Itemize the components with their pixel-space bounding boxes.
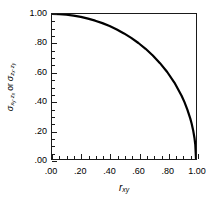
y-axis-subscript-1: xy·zx <box>9 92 16 105</box>
x-tick-minor <box>89 156 90 159</box>
y-tick-minor <box>52 51 55 52</box>
x-tick-label: .40 <box>103 166 116 176</box>
y-tick-minor <box>52 146 55 147</box>
y-tick-label: .40 <box>34 96 47 106</box>
y-tick-minor <box>52 154 55 155</box>
x-tick-label: 1.00 <box>188 166 206 176</box>
x-tick-major <box>52 154 53 159</box>
x-tick-minor <box>154 156 155 159</box>
y-tick-label: .60 <box>34 67 47 77</box>
y-tick-minor <box>52 124 55 125</box>
x-tick-label: .20 <box>74 166 87 176</box>
y-tick-label: .80 <box>34 37 47 47</box>
y-tick-label: .00 <box>34 155 47 165</box>
x-tick-minor <box>96 156 97 159</box>
x-tick-minor <box>162 156 163 159</box>
chart-figure: .00.20.40.60.801.00 .00.20.40.60.801.00 … <box>0 0 224 207</box>
x-tick-minor <box>125 156 126 159</box>
x-tick-label: .60 <box>132 166 145 176</box>
y-tick-minor <box>52 29 55 30</box>
x-axis-title: rxy <box>51 182 197 193</box>
x-tick-minor <box>176 156 177 159</box>
y-tick-minor <box>52 36 55 37</box>
y-axis-title-separator: or <box>5 81 15 93</box>
y-tick-minor <box>52 110 55 111</box>
x-tick-minor <box>191 156 192 159</box>
x-tick-minor <box>59 156 60 159</box>
x-tick-minor <box>103 156 104 159</box>
y-tick-major <box>52 102 57 103</box>
y-tick-minor <box>52 21 55 22</box>
x-axis-title-subscript: xy <box>122 186 129 193</box>
y-tick-major <box>52 161 57 162</box>
y-tick-major <box>52 73 57 74</box>
x-tick-major <box>81 154 82 159</box>
y-tick-minor <box>52 139 55 140</box>
y-tick-label: .20 <box>34 126 47 136</box>
y-tick-minor <box>52 117 55 118</box>
data-curve-path <box>52 14 196 159</box>
y-tick-major <box>52 14 57 15</box>
x-tick-label: .80 <box>162 166 175 176</box>
y-axis-title-wrapper: σxy·zxorσzx·zy <box>0 13 22 160</box>
x-tick-minor <box>118 156 119 159</box>
curve-svg <box>52 14 196 159</box>
x-tick-minor <box>147 156 148 159</box>
y-tick-major <box>52 132 57 133</box>
x-tick-major <box>140 154 141 159</box>
x-tick-label: .00 <box>45 166 58 176</box>
x-tick-minor <box>132 156 133 159</box>
plot-area <box>51 13 197 160</box>
y-tick-minor <box>52 80 55 81</box>
x-tick-major <box>169 154 170 159</box>
y-tick-minor <box>52 65 55 66</box>
x-tick-minor <box>67 156 68 159</box>
x-tick-minor <box>74 156 75 159</box>
y-tick-minor <box>52 88 55 89</box>
y-tick-minor <box>52 95 55 96</box>
x-tick-minor <box>183 156 184 159</box>
y-axis-subscript-2: zx·zy <box>9 62 16 75</box>
y-tick-major <box>52 43 57 44</box>
x-tick-major <box>198 154 199 159</box>
x-tick-major <box>110 154 111 159</box>
y-tick-label: 1.00 <box>29 8 47 18</box>
y-tick-minor <box>52 58 55 59</box>
sub2-sub2: y <box>12 62 17 64</box>
y-axis-title: σxy·zxorσzx·zy <box>5 62 16 110</box>
